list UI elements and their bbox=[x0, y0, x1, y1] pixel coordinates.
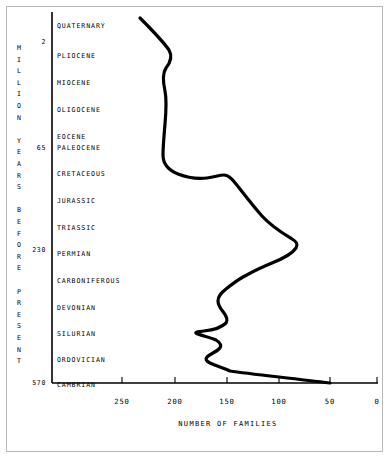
y-axis-title-char: F bbox=[17, 230, 21, 238]
period-label-carboniferous: CARBONIFEROUS bbox=[57, 277, 120, 285]
y-axis-title-char: M bbox=[17, 44, 21, 52]
period-label-cretaceous: CRETACEOUS bbox=[57, 170, 106, 178]
period-label-quaternary: QUATERNARY bbox=[57, 22, 106, 30]
x-axis-ticks bbox=[122, 377, 377, 383]
x-tick-label-150: 150 bbox=[219, 397, 235, 406]
x-tick-label-100: 100 bbox=[271, 397, 287, 406]
geologic-diversity-chart: MILLIONYEARSBEFOREPRESENT 2 65 230 570 Q… bbox=[0, 0, 390, 459]
y-tick-label-2: 2 bbox=[41, 38, 46, 46]
y-axis-title-char: L bbox=[17, 67, 21, 75]
period-label-ordovician: ORDOVICIAN bbox=[57, 356, 106, 364]
y-axis-title-char: T bbox=[17, 357, 21, 365]
y-axis-title-char: E bbox=[17, 264, 21, 272]
period-label-jurassic: JURASSIC bbox=[57, 197, 96, 205]
y-axis-title-char: P bbox=[17, 288, 21, 296]
y-axis-title-char: E bbox=[17, 311, 21, 319]
y-axis-title-char: L bbox=[17, 79, 21, 87]
y-axis-title-char: R bbox=[17, 299, 21, 307]
period-label-permian: PERMIAN bbox=[57, 250, 91, 258]
period-label-eocene: EOCENE bbox=[57, 133, 86, 141]
period-label-triassic: TRIASSIC bbox=[57, 224, 96, 232]
y-axis-title-char: S bbox=[17, 322, 21, 330]
y-tick-label-230: 230 bbox=[32, 246, 46, 254]
y-tick-label-570: 570 bbox=[32, 379, 46, 387]
y-axis-title-char: B bbox=[17, 206, 21, 214]
y-axis-title-char: O bbox=[17, 102, 21, 110]
x-tick-label-50: 50 bbox=[325, 397, 335, 406]
y-axis-title-char: Y bbox=[17, 137, 21, 145]
y-axis-title-char: I bbox=[17, 56, 21, 64]
period-label-oligocene: OLIGOCENE bbox=[57, 106, 101, 114]
x-tick-label-0: 0 bbox=[374, 397, 379, 406]
y-axis-title-char: E bbox=[17, 148, 21, 156]
y-axis-title-char: I bbox=[17, 90, 21, 98]
y-axis-title: MILLIONYEARSBEFOREPRESENT bbox=[17, 44, 21, 365]
x-tick-label-250: 250 bbox=[114, 397, 130, 406]
x-axis-title: NUMBER OF FAMILIES bbox=[178, 420, 277, 428]
chart-page: MILLIONYEARSBEFOREPRESENT 2 65 230 570 Q… bbox=[0, 0, 390, 459]
period-labels: QUATERNARY PLIOCENE MIOCENE OLIGOCENE EO… bbox=[57, 22, 120, 389]
x-axis-tick-labels: 250 200 150 100 50 0 bbox=[114, 397, 379, 406]
y-axis-title-char: N bbox=[17, 114, 21, 122]
y-axis-title-char: R bbox=[17, 172, 21, 180]
period-label-silurian: SILURIAN bbox=[57, 330, 96, 338]
x-tick-label-200: 200 bbox=[167, 397, 183, 406]
y-axis-title-char: A bbox=[17, 160, 21, 168]
y-axis-title-char: N bbox=[17, 346, 21, 354]
y-axis-title-char: E bbox=[17, 218, 21, 226]
period-label-miocene: MIOCENE bbox=[57, 79, 91, 87]
diversity-curve bbox=[140, 18, 330, 383]
period-label-paleocene: PALEOCENE bbox=[57, 144, 101, 152]
y-axis-title-char: R bbox=[17, 253, 21, 261]
y-axis-tick-labels: 2 65 230 570 bbox=[32, 38, 46, 387]
period-label-devonian: DEVONIAN bbox=[57, 304, 96, 312]
period-label-pliocene: PLIOCENE bbox=[57, 52, 96, 60]
y-axis-title-char: S bbox=[17, 183, 21, 191]
y-axis-title-char: O bbox=[17, 241, 21, 249]
y-tick-label-65: 65 bbox=[37, 144, 46, 152]
y-axis-title-char: E bbox=[17, 334, 21, 342]
